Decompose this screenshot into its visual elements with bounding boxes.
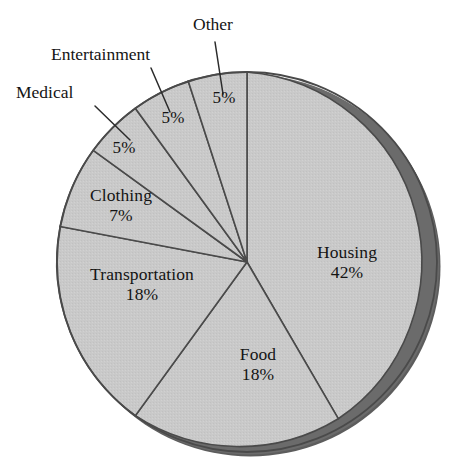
slice-value-medical-text: 5% xyxy=(98,138,150,157)
slice-label-food-value: 18% xyxy=(203,365,313,385)
slice-label-transportation-value: 18% xyxy=(62,285,222,305)
slice-label-housing-value: 42% xyxy=(282,263,412,283)
slice-value-entertainment: 5% xyxy=(147,108,199,127)
slice-value-entertainment-text: 5% xyxy=(147,108,199,127)
slice-label-clothing-name: Clothing xyxy=(66,186,176,206)
slice-label-food-name: Food xyxy=(203,345,313,365)
callout-label-medical: Medical xyxy=(16,82,73,103)
slice-value-other-text: 5% xyxy=(198,88,250,107)
slice-label-clothing-value: 7% xyxy=(66,206,176,226)
slice-label-food: Food 18% xyxy=(203,345,313,385)
slice-value-other: 5% xyxy=(198,88,250,107)
pie-chart: Housing 42% Food 18% Transportation 18% … xyxy=(0,0,449,471)
pie-chart-graphic xyxy=(0,0,449,471)
slice-label-transportation-name: Transportation xyxy=(62,265,222,285)
slice-label-housing-name: Housing xyxy=(282,243,412,263)
slice-label-transportation: Transportation 18% xyxy=(62,265,222,305)
slice-label-clothing: Clothing 7% xyxy=(66,186,176,226)
callout-label-other: Other xyxy=(193,14,233,35)
slice-label-housing: Housing 42% xyxy=(282,243,412,283)
callout-label-entertainment: Entertainment xyxy=(51,44,150,65)
slice-value-medical: 5% xyxy=(98,138,150,157)
